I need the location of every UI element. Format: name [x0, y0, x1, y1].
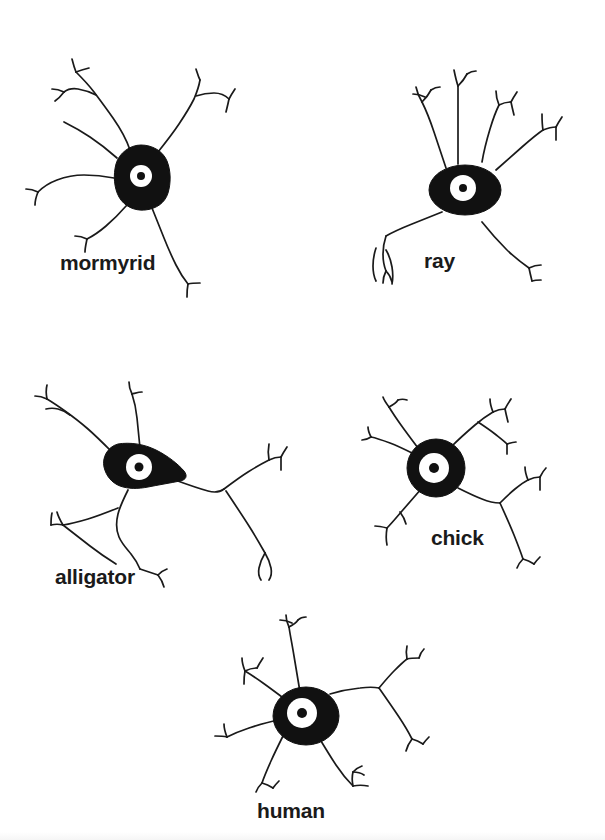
- neuron-panel-mormyrid: mormyrid: [0, 0, 300, 300]
- neuron-drawing-ray: [330, 40, 605, 300]
- neuron-drawing-alligator: [0, 340, 320, 600]
- nucleolus-human: [297, 708, 307, 718]
- species-label-human: human: [257, 800, 325, 821]
- neuron-panel-ray: ray: [330, 40, 605, 300]
- neuron-panel-chick: chick: [330, 390, 605, 590]
- species-label-chick: chick: [431, 527, 484, 548]
- neuron-panel-alligator: alligator: [0, 340, 320, 600]
- nucleolus-chick: [429, 463, 439, 473]
- neuron-comparison-figure: mormyrid: [0, 0, 605, 840]
- species-label-alligator: alligator: [55, 566, 135, 587]
- neuron-panel-human: human: [170, 600, 460, 840]
- species-label-mormyrid: mormyrid: [60, 252, 155, 273]
- species-label-ray: ray: [424, 250, 455, 271]
- nucleolus-mormyrid: [137, 172, 145, 180]
- neuron-drawing-chick: [330, 390, 605, 590]
- nucleolus-alligator: [135, 463, 144, 472]
- page-bottom-edge: [0, 832, 605, 840]
- nucleolus-ray: [459, 184, 467, 192]
